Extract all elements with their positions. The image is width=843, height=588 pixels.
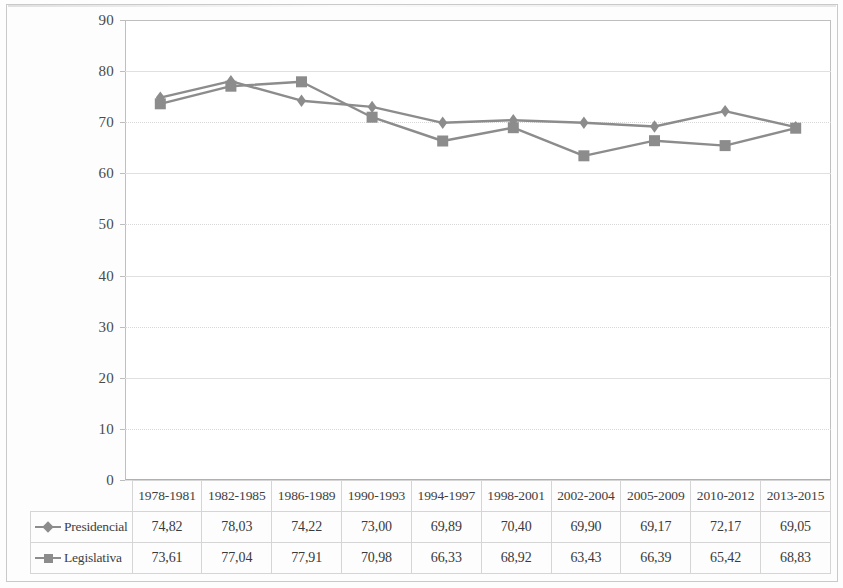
square-marker-icon xyxy=(35,551,61,565)
column-header: 1994-1997 xyxy=(411,481,481,512)
column-header: 2005-2009 xyxy=(621,481,691,512)
table-header-row: 1978-1981 1982-1985 1986-1989 1990-1993 … xyxy=(31,481,831,512)
data-point-marker xyxy=(790,123,801,134)
data-cell: 77,91 xyxy=(272,543,342,574)
y-axis-tick-label: 50 xyxy=(99,216,114,233)
data-cell: 66,39 xyxy=(621,543,691,574)
data-cell: 68,92 xyxy=(481,543,551,574)
column-header: 2013-2015 xyxy=(761,481,831,512)
data-cell: 68,83 xyxy=(761,543,831,574)
column-header: 1998-2001 xyxy=(481,481,551,512)
y-axis-tick-label: 60 xyxy=(99,165,114,182)
column-header: 1986-1989 xyxy=(272,481,342,512)
chart-page: 9080706050403020100 1978-1981 1982-1985 … xyxy=(0,0,843,588)
y-axis-tick-label: 20 xyxy=(99,369,114,386)
data-cell: 73,00 xyxy=(342,512,412,543)
series-line-presidencial xyxy=(160,81,795,127)
y-axis-tick-label: 80 xyxy=(99,63,114,80)
data-cell: 72,17 xyxy=(691,512,761,543)
data-cell: 78,03 xyxy=(202,512,272,543)
y-axis-tick-label: 90 xyxy=(99,12,114,29)
column-header: 1982-1985 xyxy=(202,481,272,512)
data-cell: 74,22 xyxy=(272,512,342,543)
data-cell: 66,33 xyxy=(411,543,481,574)
data-cell: 70,40 xyxy=(481,512,551,543)
column-header: 2010-2012 xyxy=(691,481,761,512)
data-point-marker xyxy=(437,136,448,147)
data-cell: 70,98 xyxy=(342,543,412,574)
column-header: 1978-1981 xyxy=(132,481,202,512)
table-row: Legislativa 73,61 77,04 77,91 70,98 66,3… xyxy=(31,543,831,574)
data-cell: 65,42 xyxy=(691,543,761,574)
data-cell: 69,90 xyxy=(551,512,621,543)
data-point-marker xyxy=(368,101,377,113)
data-point-marker xyxy=(649,135,660,146)
column-header: 2002-2004 xyxy=(551,481,621,512)
data-table: 1978-1981 1982-1985 1986-1989 1990-1993 … xyxy=(30,480,831,574)
data-cell: 74,82 xyxy=(132,512,202,543)
data-cell: 69,89 xyxy=(411,512,481,543)
data-point-marker xyxy=(155,98,166,109)
data-point-marker xyxy=(296,76,307,87)
y-axis-tick-label: 40 xyxy=(99,267,114,284)
series-name: Legislativa xyxy=(64,550,122,566)
data-point-marker xyxy=(225,81,236,92)
diamond-marker-icon xyxy=(35,520,61,534)
series-layer xyxy=(125,20,831,480)
table-corner-cell xyxy=(31,481,133,512)
data-point-marker xyxy=(650,120,659,132)
data-point-marker xyxy=(721,105,730,117)
series-legend-presidencial: Presidencial xyxy=(31,512,133,543)
table-row: Presidencial 74,82 78,03 74,22 73,00 69,… xyxy=(31,512,831,543)
data-point-marker xyxy=(297,95,306,107)
data-cell: 73,61 xyxy=(132,543,202,574)
column-header: 1990-1993 xyxy=(342,481,412,512)
data-cell: 63,43 xyxy=(551,543,621,574)
chart-plot: 9080706050403020100 xyxy=(125,20,831,480)
data-point-marker xyxy=(438,117,447,129)
data-cell: 77,04 xyxy=(202,543,272,574)
series-line-legislativa xyxy=(160,82,795,156)
series-legend-legislativa: Legislativa xyxy=(31,543,133,574)
scan-smudge xyxy=(8,5,836,7)
y-axis-tick-label: 30 xyxy=(99,318,114,335)
y-axis-tick-label: 70 xyxy=(99,114,114,131)
y-axis-tick-label: 10 xyxy=(99,420,114,437)
data-point-marker xyxy=(508,122,519,133)
data-cell: 69,05 xyxy=(761,512,831,543)
data-point-marker xyxy=(367,112,378,123)
data-point-marker xyxy=(579,117,588,129)
series-name: Presidencial xyxy=(64,519,128,535)
data-point-marker xyxy=(720,140,731,151)
data-point-marker xyxy=(578,150,589,161)
data-cell: 69,17 xyxy=(621,512,691,543)
